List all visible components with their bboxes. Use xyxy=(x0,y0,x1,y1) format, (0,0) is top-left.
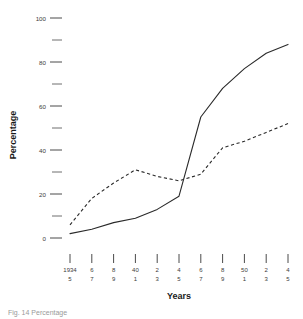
x-tick-label-bottom-7: 9 xyxy=(221,276,225,282)
y-tick-label-0: 0 xyxy=(43,235,47,242)
y-axis-ticks xyxy=(50,18,62,238)
x-tick-label-bottom-8: 1 xyxy=(243,276,247,282)
y-tick-label-60: 60 xyxy=(39,103,46,110)
y-tick-label-80: 80 xyxy=(39,59,46,66)
y-axis-title: Percentage xyxy=(8,111,18,160)
y-tick-label-100: 100 xyxy=(36,15,47,22)
x-tick-label-top-0: 1934 xyxy=(63,267,77,273)
line-chart: 100 80 60 40 20 0 Percentage 1934 6 8 40 xyxy=(0,0,303,319)
x-tick-label-bottom-5: 5 xyxy=(177,276,181,282)
series-line-dashed xyxy=(70,124,288,225)
x-tick-label-bottom-1: 7 xyxy=(90,276,94,282)
chart-page: 100 80 60 40 20 0 Percentage 1934 6 8 40 xyxy=(0,0,303,319)
x-tick-label-bottom-4: 3 xyxy=(156,276,160,282)
x-tick-label-top-1: 6 xyxy=(90,267,94,273)
x-tick-label-top-9: 2 xyxy=(265,267,269,273)
x-tick-label-top-4: 2 xyxy=(156,267,160,273)
x-tick-label-top-10: 4 xyxy=(286,267,290,273)
y-axis-tick-labels: 100 80 60 40 20 0 xyxy=(36,15,47,242)
x-tick-label-bottom-3: 1 xyxy=(134,276,138,282)
x-tick-label-top-2: 8 xyxy=(112,267,116,273)
x-axis-tick-labels-bottom: 5 7 9 1 3 5 7 9 1 3 5 xyxy=(68,276,290,282)
y-tick-label-40: 40 xyxy=(39,147,46,154)
x-tick-label-bottom-9: 3 xyxy=(265,276,269,282)
x-tick-label-top-7: 8 xyxy=(221,267,225,273)
figure-caption: Fig. 14 Percentage xyxy=(8,309,298,319)
y-tick-label-20: 20 xyxy=(39,191,46,198)
x-tick-label-top-5: 4 xyxy=(177,267,181,273)
x-axis-tick-labels-top: 1934 6 8 40 2 4 6 8 50 2 4 xyxy=(63,267,290,273)
x-axis-title: Years xyxy=(167,291,191,301)
x-tick-label-bottom-0: 5 xyxy=(68,276,72,282)
series-line-solid xyxy=(70,44,288,233)
x-tick-label-top-8: 50 xyxy=(241,267,248,273)
x-tick-label-bottom-2: 9 xyxy=(112,276,116,282)
x-axis-ticks xyxy=(70,254,288,263)
x-tick-label-bottom-6: 7 xyxy=(199,276,203,282)
x-tick-label-top-3: 40 xyxy=(132,267,139,273)
x-tick-label-bottom-10: 5 xyxy=(286,276,290,282)
x-tick-label-top-6: 6 xyxy=(199,267,203,273)
